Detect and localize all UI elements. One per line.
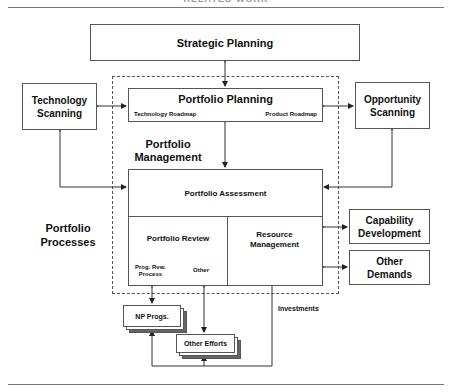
other-efforts-label: Other Efforts xyxy=(184,340,227,347)
capability-development-box: Capability Development xyxy=(349,209,430,244)
resource-management-line-1: Resource xyxy=(227,230,322,240)
opportunity-scanning-label-2: Scanning xyxy=(370,106,415,119)
capability-development-line-1: Capability xyxy=(366,214,414,227)
portfolio-review-section: Portfolio Review Prog. Rvw. Process Othe… xyxy=(129,216,228,285)
portfolio-assessment-label: Portfolio Assessment xyxy=(185,189,267,198)
opportunity-scanning-box: Opportunity Scanning xyxy=(355,82,430,129)
technology-scanning-label-1: Technology xyxy=(32,94,87,107)
prog-rvw-line-1: Prog. Rvw. xyxy=(135,264,166,271)
portfolio-planning-box: Portfolio Planning Technology Roadmap Pr… xyxy=(128,88,323,122)
other-label: Other xyxy=(193,267,209,273)
capability-development-line-2: Development xyxy=(358,227,421,240)
technology-roadmap-label: Technology Roadmap xyxy=(134,111,196,117)
prog-rvw-line-2: Process xyxy=(135,271,166,278)
other-efforts-box: Other Efforts xyxy=(176,334,235,353)
other-demands-line-2: Demands xyxy=(367,268,412,281)
strategic-planning-label: Strategic Planning xyxy=(177,37,274,49)
technology-scanning-box: Technology Scanning xyxy=(22,83,97,130)
portfolio-planning-label: Portfolio Planning xyxy=(129,93,322,105)
portfolio-review-label: Portfolio Review xyxy=(129,234,227,243)
portfolio-processes-line-2: Processes xyxy=(28,235,108,249)
portfolio-processes-label: Portfolio Processes xyxy=(28,221,108,249)
portfolio-assessment-section: Portfolio Assessment xyxy=(129,170,322,217)
technology-scanning-label-2: Scanning xyxy=(37,107,82,120)
np-progs-box: NP Progs. xyxy=(123,305,181,327)
portfolio-management-line-2: Management xyxy=(118,151,218,164)
other-demands-box: Other Demands xyxy=(349,250,430,285)
portfolio-management-line-1: Portfolio xyxy=(118,138,218,151)
resource-management-line-2: Management xyxy=(227,240,322,250)
investments-label: Investments xyxy=(278,305,319,312)
opportunity-scanning-label-1: Opportunity xyxy=(364,93,421,106)
resource-management-section: Resource Management xyxy=(227,216,322,285)
resource-management-label: Resource Management xyxy=(227,230,322,250)
product-roadmap-label: Product Roadmap xyxy=(265,111,317,117)
portfolio-processes-line-1: Portfolio xyxy=(28,221,108,235)
prog-rvw-process-label: Prog. Rvw. Process xyxy=(135,264,166,278)
np-progs-label: NP Progs. xyxy=(135,313,168,320)
other-demands-line-1: Other xyxy=(376,255,403,268)
portfolio-assessment-group: Portfolio Assessment Portfolio Review Pr… xyxy=(128,169,323,286)
portfolio-management-label: Portfolio Management xyxy=(118,138,218,164)
strategic-planning-box: Strategic Planning xyxy=(90,24,360,61)
